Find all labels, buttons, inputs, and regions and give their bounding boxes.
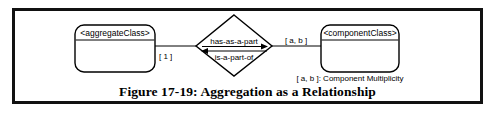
component-multiplicity-label: [ a, b ] xyxy=(285,36,307,45)
figure-caption: Figure 17-19: Aggregation as a Relations… xyxy=(14,84,481,100)
figure-page: <aggregateClass> [ 1 ] has-as-a-part is-… xyxy=(0,0,497,113)
multiplicity-legend: [ a, b ]: Component Multiplicity xyxy=(296,74,403,83)
diamond-reverse-label: is-a-part-of xyxy=(215,53,254,62)
diamond-forward-label: has-as-a-part xyxy=(210,37,258,46)
component-class-label: <componentClass> xyxy=(323,28,396,38)
aggregate-class-label: <aggregateClass> xyxy=(80,28,150,38)
aggregate-multiplicity-label: [ 1 ] xyxy=(159,52,172,61)
